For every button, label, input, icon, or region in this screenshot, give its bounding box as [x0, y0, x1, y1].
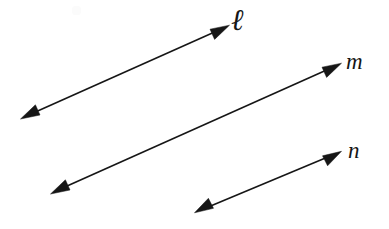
line-n-segment	[201, 154, 335, 210]
line-l-arrowhead-end	[210, 25, 230, 39]
line-label-l: ℓ	[231, 5, 244, 35]
line-n-group	[195, 151, 342, 213]
line-n-arrowhead-start	[195, 198, 214, 213]
line-label-n: n	[348, 139, 360, 162]
line-label-m: m	[346, 50, 363, 73]
line-l-arrowhead-start	[21, 105, 41, 119]
line-m-arrowhead-start	[51, 180, 71, 194]
line-l-group	[21, 25, 230, 119]
geometry-diagram: ℓ m n	[0, 0, 389, 229]
line-l-segment	[27, 28, 223, 116]
line-n-arrowhead-end	[323, 151, 342, 166]
line-m-group	[51, 63, 342, 194]
diagram-canvas	[0, 0, 389, 229]
line-m-arrowhead-end	[322, 63, 342, 77]
